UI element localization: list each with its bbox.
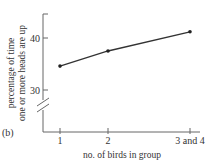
- y-axis-title: percentage of time one or more heads are…: [6, 25, 27, 121]
- y-tick-label-30: 30: [30, 85, 40, 96]
- plot-area: [58, 30, 192, 68]
- x-tick-label-1: 1: [58, 135, 63, 146]
- data-point-3: [188, 30, 192, 34]
- x-tick-label-3: 3 and 4: [175, 135, 204, 146]
- y-ticks: 3040: [30, 33, 48, 96]
- x-ticks: 123 and 4: [58, 128, 205, 146]
- series-line-0: [60, 32, 190, 66]
- axis-break-icon: [37, 98, 49, 112]
- y-axis-title-line-1: percentage of time: [6, 38, 16, 109]
- y-tick-label-40: 40: [30, 33, 40, 44]
- x-tick-label-2: 2: [106, 135, 111, 146]
- data-point-2: [106, 49, 110, 53]
- panel-label: (b): [2, 127, 14, 139]
- data-point-1: [58, 64, 62, 68]
- y-axis-title-line-2: one or more heads are up: [17, 25, 27, 121]
- line-chart: (b) percentage of time one or more heads…: [0, 0, 211, 165]
- x-axis-title: no. of birds in group: [83, 150, 161, 160]
